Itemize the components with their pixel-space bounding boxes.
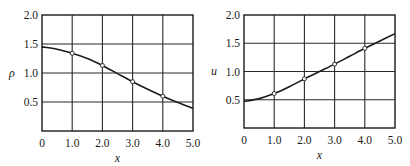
x-tick-label: 1.0 — [267, 134, 282, 146]
data-point-marker — [272, 92, 276, 96]
data-point-marker — [302, 77, 306, 81]
y-tick-label: 1.0 — [24, 67, 39, 79]
plot-rho: 01.02.03.04.05.00.51.01.52.0xρ — [8, 9, 200, 165]
x-tick-label: 5.0 — [186, 137, 201, 149]
data-point-marker — [333, 62, 337, 66]
x-tick-label: 1.0 — [65, 137, 80, 149]
x-tick-label: 2.0 — [95, 137, 110, 149]
data-point-marker — [161, 94, 165, 98]
x-tick-label: 3.0 — [125, 137, 140, 149]
x-tick-label: 0 — [39, 137, 45, 149]
data-curve — [42, 47, 193, 108]
y-tick-label: 1.0 — [226, 66, 241, 78]
y-axis-label: ρ — [8, 66, 15, 80]
x-tick-label: 3.0 — [327, 134, 342, 146]
y-tick-label: 2.0 — [226, 9, 241, 21]
plot-u: 01.02.03.04.05.00.51.01.52.0xu — [211, 9, 402, 162]
y-tick-label: 1.5 — [24, 38, 39, 50]
y-tick-label: 0.5 — [226, 94, 241, 106]
data-curve — [244, 34, 395, 102]
x-tick-label: 4.0 — [156, 137, 171, 149]
y-tick-label: 1.5 — [226, 37, 241, 49]
x-tick-label: 2.0 — [297, 134, 312, 146]
x-tick-label: 4.0 — [358, 134, 373, 146]
y-tick-label: 2.0 — [24, 9, 39, 21]
x-axis-label: x — [114, 151, 121, 165]
data-point-marker — [131, 80, 135, 84]
x-tick-label: 5.0 — [388, 134, 403, 146]
x-axis-label: x — [316, 148, 323, 162]
data-point-marker — [70, 51, 74, 55]
data-point-marker — [100, 63, 104, 67]
x-tick-label: 0 — [241, 134, 247, 146]
chart-figure: 01.02.03.04.05.00.51.01.52.0xρ01.02.03.0… — [0, 0, 410, 166]
y-tick-label: 0.5 — [24, 96, 39, 108]
data-point-marker — [363, 46, 367, 50]
y-axis-label: u — [211, 64, 217, 78]
